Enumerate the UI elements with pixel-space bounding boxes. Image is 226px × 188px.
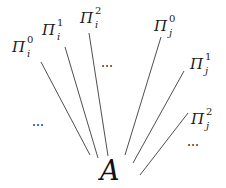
node-pi-i-2: Π2i — [80, 11, 93, 26]
ellipsis-top: ⋯ — [101, 60, 114, 72]
connector-pi_i_1 — [65, 47, 98, 158]
apex-node-a: A — [100, 157, 120, 184]
connector-pi_j_1 — [133, 71, 184, 163]
fan-diagram: Π0i Π1i Π2i Π0j Π1j Π2j ⋯ ⋯ ⋯ A — [0, 0, 226, 188]
node-pi-j-0: Π0j — [154, 19, 167, 34]
ellipsis-right: ⋯ — [187, 139, 200, 151]
node-pi-i-0: Π0i — [12, 40, 25, 55]
connector-pi_i_0 — [41, 62, 90, 155]
ellipsis-left: ⋯ — [32, 119, 45, 131]
connector-pi_j_2 — [140, 113, 188, 175]
node-pi-j-2: Π2j — [191, 112, 204, 127]
node-pi-j-1: Π1j — [190, 57, 203, 72]
node-pi-i-1: Π1i — [42, 23, 55, 38]
connector-pi_j_0 — [125, 37, 161, 155]
